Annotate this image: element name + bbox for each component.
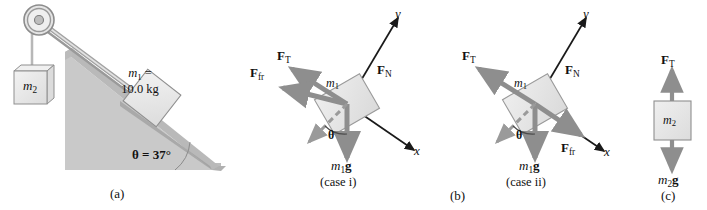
case-i-x-axis-label: x <box>414 143 420 159</box>
physics-figure: m1 = 10.0 kg m2 θ = 37° (a) <box>0 0 707 210</box>
case-ii-x-axis-label: x <box>604 144 610 160</box>
case-i-y-axis-label: y <box>395 6 401 22</box>
panel-a-caption: (a) <box>110 186 124 202</box>
block-m1-label: m1 = 10.0 kg <box>110 66 170 96</box>
m2-subscript: 2 <box>32 85 37 95</box>
panel-c-weight-label: m2g <box>658 172 679 189</box>
pulley <box>24 5 54 35</box>
case-i-mass-label: m1 <box>326 76 339 91</box>
panel-b-drawing <box>236 0 636 210</box>
panel-b-caption: (b) <box>450 188 465 204</box>
case-i-caption: (case i) <box>320 175 356 190</box>
panel-c-caption: (c) <box>661 188 675 204</box>
incline-angle-label: θ = 37° <box>132 147 171 163</box>
panel-a-incline-setup: m1 = 10.0 kg m2 θ = 37° (a) <box>0 0 236 210</box>
panel-c-mass-label: m2 <box>663 113 676 128</box>
case-ii-caption: (case ii) <box>506 175 546 190</box>
panel-c-FT-label: FT <box>661 52 675 69</box>
m1-value: 10.0 kg <box>121 82 159 96</box>
case-i-weight-label: m1g <box>331 158 352 175</box>
m1-symbol: m <box>128 66 137 80</box>
case-ii-y-axis-label: y <box>583 6 589 22</box>
m2-symbol: m <box>23 78 32 93</box>
case-ii-FN-label: FN <box>565 62 580 79</box>
case-i-Ffr-label: Ffr <box>250 65 264 82</box>
panel-b-free-body-diagrams: y x FT Ffr FN m1 θ m1g (case i) y x FT F… <box>236 0 636 210</box>
case-i-FT-label: FT <box>277 48 291 65</box>
block-m2-label: m2 <box>23 79 37 95</box>
case-i-diagram <box>283 18 414 158</box>
panel-a-drawing <box>0 0 236 210</box>
case-i-FN-label: FN <box>377 62 392 79</box>
case-ii-theta-label: θ <box>516 128 522 143</box>
case-i-theta-label: θ <box>328 128 334 143</box>
case-ii-Ffr-label: Ffr <box>561 140 575 157</box>
panel-c-free-body-m2: FT m2 m2g (c) <box>636 0 707 210</box>
case-ii-mass-label: m1 <box>514 76 527 91</box>
case-ii-FT-label: FT <box>462 48 476 65</box>
case-ii-weight-label: m1g <box>519 158 540 175</box>
m1-equals: = <box>142 66 152 80</box>
case-ii-diagram <box>479 18 604 158</box>
